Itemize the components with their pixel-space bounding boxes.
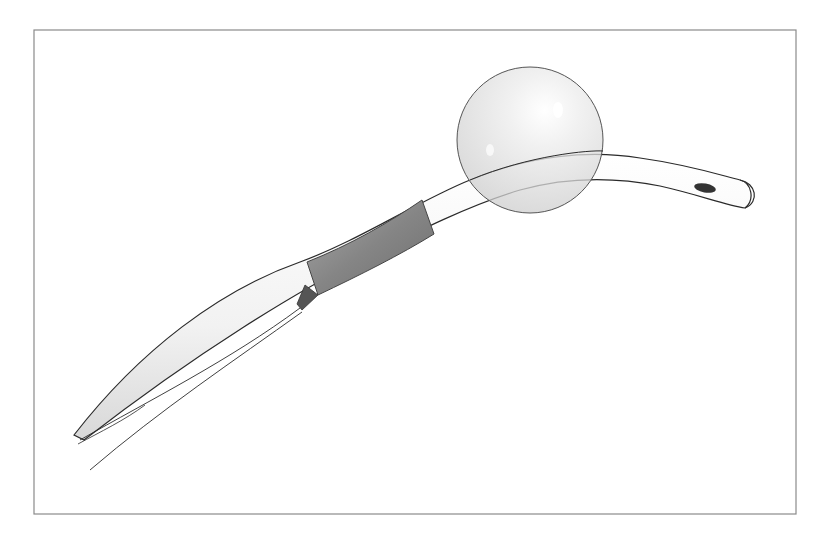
balloon-highlight: [553, 102, 563, 118]
balloon: [457, 67, 603, 213]
catheter-illustration: [0, 0, 818, 534]
balloon-highlight-2: [486, 144, 494, 156]
figure-frame: [34, 30, 796, 514]
